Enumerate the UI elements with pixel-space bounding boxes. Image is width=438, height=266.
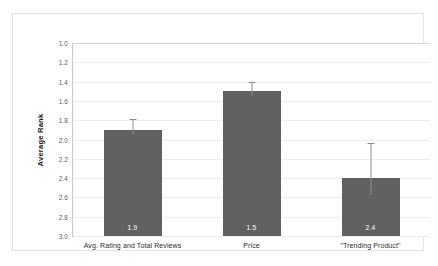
y-tick-label: 2.8 xyxy=(59,213,68,220)
x-tick-label: Price xyxy=(243,242,259,249)
gridline xyxy=(73,236,430,237)
y-axis-title: Average Rank xyxy=(33,43,47,237)
y-tick-label: 1.6 xyxy=(59,97,68,104)
y-tick-label: 2.2 xyxy=(59,155,68,162)
y-tick-label: 2.6 xyxy=(59,194,68,201)
bar-group: 1.5Price xyxy=(192,43,311,236)
chart-frame: Average Rank 1.01.21.41.61.82.02.22.42.6… xyxy=(12,13,424,251)
error-bar-cap-upper xyxy=(248,82,255,83)
y-tick-label: 2.4 xyxy=(59,175,68,182)
y-tick-label: 1.2 xyxy=(59,59,68,66)
plot-area: 1.01.21.41.61.82.02.22.42.62.83.01.9Avg.… xyxy=(72,43,430,237)
error-bar xyxy=(370,143,371,194)
bar-group: 1.9Avg. Rating and Total Reviews xyxy=(73,43,192,236)
y-tick-label: 2.0 xyxy=(59,136,68,143)
bar-value-label: 2.4 xyxy=(342,224,400,231)
bar[interactable]: 1.9 xyxy=(104,130,162,236)
error-bar xyxy=(132,119,133,134)
x-tick-label: Avg. Rating and Total Reviews xyxy=(84,242,182,249)
x-tick-label: "Trending Product" xyxy=(340,242,400,249)
y-tick-label: 1.8 xyxy=(59,117,68,124)
y-tick-label: 3.0 xyxy=(59,233,68,240)
error-bar-cap-upper xyxy=(129,119,136,120)
bar-value-label: 1.9 xyxy=(104,224,162,231)
bar-value-label: 1.5 xyxy=(223,224,281,231)
y-tick-label: 1.4 xyxy=(59,78,68,85)
chart-figure: Average Rank 1.01.21.41.61.82.02.22.42.6… xyxy=(0,0,438,266)
bar[interactable]: 1.5 xyxy=(223,91,281,236)
error-bar-cap-upper xyxy=(367,143,374,144)
y-tick-label: 1.0 xyxy=(59,40,68,47)
bar-group: 2.4"Trending Product" xyxy=(311,43,430,236)
error-bar xyxy=(251,82,252,96)
